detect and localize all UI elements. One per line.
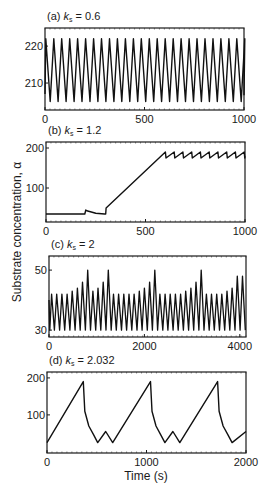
figure: (a) ks = 0.605001000210220(b) ks = 1.205…: [0, 0, 269, 493]
x-tick-label: 1000: [134, 456, 158, 468]
y-tick-label: 100: [26, 182, 44, 194]
x-tick-label: 1000: [232, 113, 256, 125]
y-tick-label: 100: [27, 409, 45, 421]
x-tick-label: 0: [44, 456, 50, 468]
panel-title: (b) ks = 1.2: [48, 124, 101, 137]
panel-d: (d) ks = 2.032010002000100200: [27, 354, 259, 468]
panel-title: (a) ks = 0.6: [47, 10, 100, 23]
panel-c: (c) ks = 20200040003050: [35, 238, 252, 352]
y-tick-label: 50: [35, 264, 47, 276]
x-tick-label: 0: [43, 225, 49, 237]
panel-a: (a) ks = 0.605001000210220: [25, 10, 257, 125]
x-tick-label: 2000: [132, 340, 156, 352]
y-tick-label: 200: [26, 142, 44, 154]
data-line: [49, 270, 245, 330]
data-line: [45, 39, 245, 102]
x-tick-label: 4000: [228, 340, 252, 352]
panel-b: (b) ks = 1.205001000100200: [26, 124, 258, 237]
x-tick-label: 1000: [233, 225, 257, 237]
panel-title: (d) ks = 2.032: [49, 354, 115, 367]
x-tick-label: 2000: [234, 456, 258, 468]
data-line: [46, 152, 245, 214]
data-line: [47, 382, 246, 443]
panel-title: (c) ks = 2: [51, 238, 95, 251]
y-tick-label: 210: [25, 77, 43, 89]
y-tick-label: 30: [35, 324, 47, 336]
y-tick-label: 200: [27, 372, 45, 384]
x-axis-label: Time (s): [124, 469, 168, 483]
y-axis-label: Substrate concentration, α: [10, 162, 24, 302]
y-tick-label: 220: [25, 40, 43, 52]
x-tick-label: 0: [46, 340, 52, 352]
x-tick-label: 500: [136, 225, 154, 237]
x-tick-label: 500: [135, 113, 153, 125]
